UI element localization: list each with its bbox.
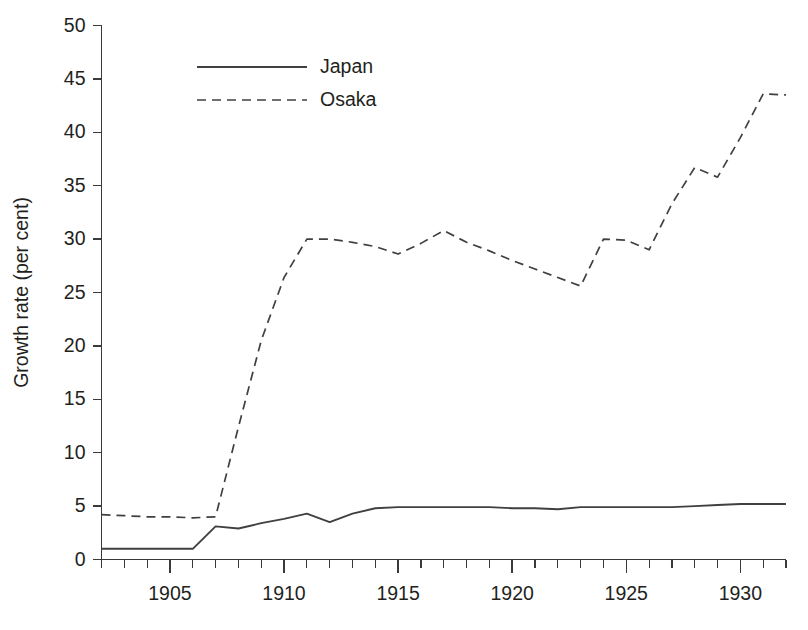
legend-label-japan: Japan (320, 55, 373, 77)
y-axis-tick-label: 35 (64, 174, 86, 196)
y-axis-tick-label: 15 (64, 387, 86, 409)
axes (102, 26, 787, 560)
x-axis-tick-label: 1930 (719, 582, 763, 604)
y-axis-tick-label: 5 (75, 494, 86, 516)
data-series (102, 94, 787, 549)
y-axis-tick-label: 25 (64, 281, 86, 303)
y-axis-tick-label: 20 (64, 334, 86, 356)
y-axis-tick-labels: 05101520253035404550 (64, 14, 86, 570)
axis-ticks (93, 26, 787, 573)
y-axis-tick-label: 10 (64, 441, 86, 463)
y-axis-tick-label: 0 (75, 548, 86, 570)
y-axis-title: Growth rate (per cent) (10, 197, 32, 388)
y-axis-tick-label: 50 (64, 14, 86, 36)
axis-lines (102, 26, 787, 560)
y-axis-tick-label: 30 (64, 227, 86, 249)
x-axis-tick-label: 1920 (491, 582, 535, 604)
series-line-japan (102, 504, 787, 549)
chart-legend: JapanOsaka (197, 55, 377, 110)
legend-label-osaka: Osaka (320, 88, 377, 110)
series-line-osaka (102, 94, 787, 518)
x-axis-tick-labels: 190519101915192019251930 (148, 582, 762, 604)
growth-rate-line-chart: 05101520253035404550 1905191019151920192… (0, 0, 808, 630)
y-axis-title-text: Growth rate (per cent) (10, 197, 32, 388)
x-axis-tick-label: 1910 (262, 582, 306, 604)
y-axis-tick-label: 40 (64, 120, 86, 142)
chart-canvas: 05101520253035404550 1905191019151920192… (0, 0, 808, 630)
x-axis-tick-label: 1915 (376, 582, 420, 604)
x-axis-tick-label: 1925 (605, 582, 649, 604)
y-axis-tick-label: 45 (64, 67, 86, 89)
x-axis-tick-label: 1905 (148, 582, 192, 604)
